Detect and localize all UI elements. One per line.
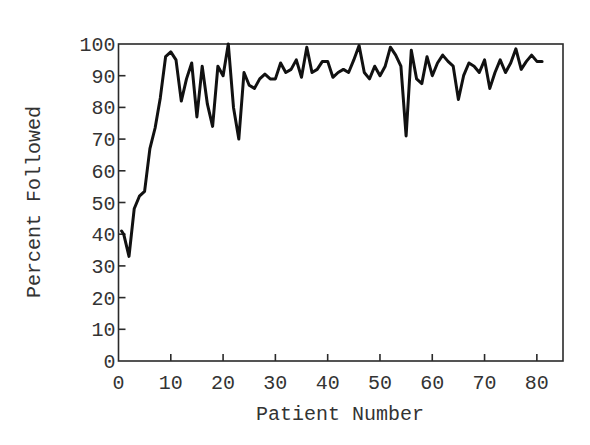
y-tick-label: 50 — [91, 193, 115, 216]
x-tick-label: 60 — [420, 372, 444, 395]
y-tick-label: 40 — [91, 224, 115, 247]
y-tick-label: 80 — [91, 97, 115, 120]
x-tick-label: 80 — [525, 372, 549, 395]
x-tick-label: 30 — [263, 372, 287, 395]
y-tick-label: 90 — [91, 66, 115, 89]
x-tick-label: 40 — [316, 372, 340, 395]
x-tick-label: 50 — [368, 372, 392, 395]
y-tick-label: 0 — [103, 351, 115, 374]
x-tick-label: 0 — [112, 372, 124, 395]
line-chart: 0102030405060708090100 01020304050607080… — [0, 0, 590, 445]
x-axis-title: Patient Number — [256, 403, 424, 426]
x-tick-label: 10 — [159, 372, 183, 395]
y-tick-label: 100 — [79, 34, 115, 57]
y-tick-label: 30 — [91, 256, 115, 279]
x-tick-label: 70 — [473, 372, 497, 395]
percent-followed-line — [122, 44, 542, 256]
plot-frame — [119, 44, 564, 361]
y-tick-label: 60 — [91, 161, 115, 184]
y-tick-label: 10 — [91, 319, 115, 342]
y-axis-title: Percent Followed — [23, 106, 46, 298]
x-axis: 01020304050607080 — [112, 354, 548, 395]
plot-border — [119, 44, 564, 361]
y-tick-label: 20 — [91, 288, 115, 311]
y-tick-label: 70 — [91, 129, 115, 152]
x-tick-label: 20 — [211, 372, 235, 395]
